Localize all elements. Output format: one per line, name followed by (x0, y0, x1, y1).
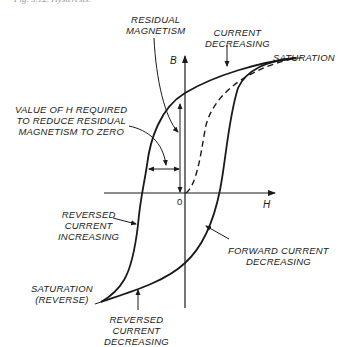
axes (104, 56, 275, 308)
saturation-reverse-pointer (95, 302, 101, 304)
x-axis-label: H (263, 199, 270, 210)
current-decreasing-label: CURRENT DECREASING (205, 27, 270, 49)
value-of-h-label: VALUE OF H REQUIRED TO REDUCE RESIDUAL M… (15, 104, 127, 137)
y-axis-label: B (170, 55, 177, 66)
reversed-current-decreasing-label: REVERSED CURRENT DECREASING (104, 314, 169, 347)
forward-current-decreasing-pointer (206, 226, 229, 239)
reversed-current-increasing-label: REVERSED CURRENT INCREASING (58, 209, 119, 242)
saturation-label: SATURATION (273, 52, 335, 63)
initial-magnetization-curve (186, 58, 296, 193)
residual-magnetism-label: RESIDUAL MAGNETISM (126, 14, 185, 36)
saturation-reverse-label: SATURATION (REVERSE) (31, 283, 93, 305)
forward-current-decreasing-label: FORWARD CURRENT DECREASING (228, 245, 329, 267)
residual-magnetism-pointer (154, 38, 178, 132)
origin-label: 0 (177, 196, 182, 207)
